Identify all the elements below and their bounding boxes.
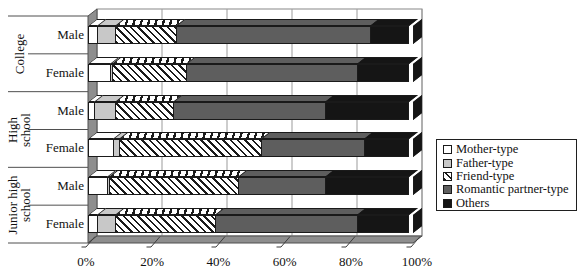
back-wall bbox=[97, 9, 422, 236]
legend-swatch-mother-type bbox=[443, 145, 452, 154]
legend-swatch-others bbox=[443, 199, 452, 208]
legend-label: Others bbox=[456, 197, 489, 210]
legend-swatch-friend-type bbox=[443, 172, 452, 181]
legend-label: Romantic partner-type bbox=[456, 183, 569, 196]
chart-3d-scaffold bbox=[0, 0, 588, 276]
legend-swatch-romantic-partner-type bbox=[443, 185, 452, 194]
legend-item-mother-type: Mother-type bbox=[443, 143, 576, 156]
legend-label: Friend-type bbox=[456, 170, 514, 183]
legend-label: Father-type bbox=[456, 157, 513, 170]
stacked-bar-chart: MaleFemaleCollegeMaleFemaleHighschoolMal… bbox=[0, 0, 588, 276]
legend: Mother-typeFather-typeFriend-typeRomanti… bbox=[436, 139, 577, 211]
legend-item-friend-type: Friend-type bbox=[443, 170, 576, 183]
legend-item-father-type: Father-type bbox=[443, 156, 576, 169]
floor bbox=[88, 236, 422, 243]
left-wall bbox=[88, 9, 97, 243]
legend-swatch-father-type bbox=[443, 159, 452, 168]
legend-label: Mother-type bbox=[456, 143, 518, 156]
legend-item-others: Others bbox=[443, 197, 576, 210]
legend-item-romantic-partner-type: Romantic partner-type bbox=[443, 183, 576, 196]
